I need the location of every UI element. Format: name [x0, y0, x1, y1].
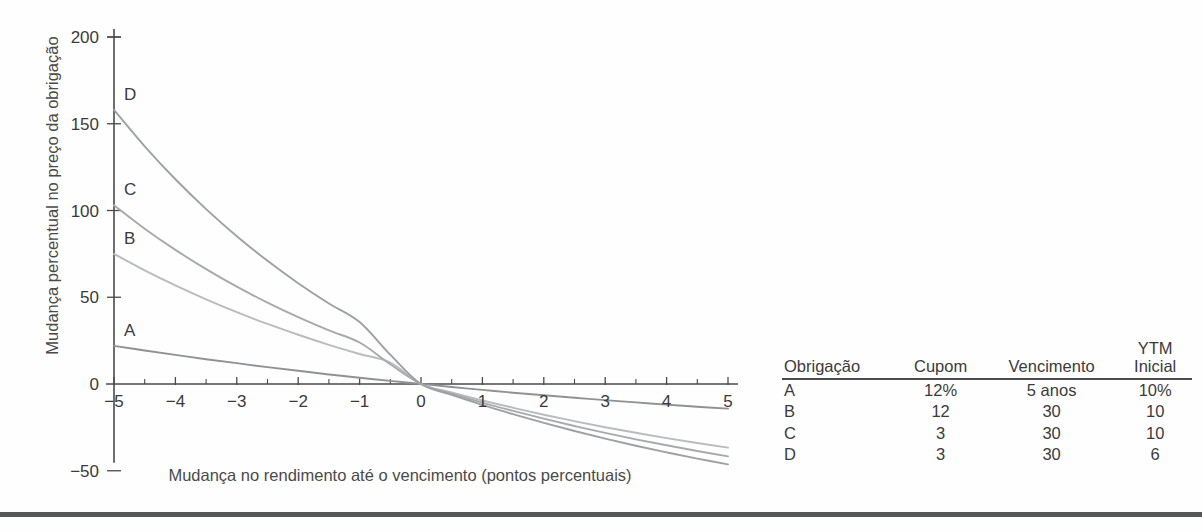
table-header: Obrigação Cupom Vencimento YTM Inicial: [782, 340, 1192, 379]
x-tick-label: 1: [478, 392, 487, 411]
curve-d: [114, 110, 728, 464]
table-cell-maturity: 30: [985, 444, 1118, 465]
y-tick-label: 200: [71, 28, 99, 47]
y-tick-label: 150: [71, 115, 99, 134]
y-tick-label: 100: [71, 202, 99, 221]
bottom-divider-rule: [0, 512, 1202, 517]
table-cell-bond: D: [782, 444, 896, 465]
table-header-row: Obrigação Cupom Vencimento YTM Inicial: [782, 340, 1192, 379]
table-cell-maturity: 5 anos: [985, 379, 1118, 401]
y-tick-label: −50: [70, 462, 99, 481]
curve-label-c: C: [124, 180, 136, 199]
table-cell-bond: B: [782, 401, 896, 422]
table-header-vencimento-line1: Vencimento: [991, 358, 1112, 376]
curve-b: [114, 254, 728, 448]
table-cell-coupon: 3: [896, 423, 985, 444]
x-tick-label: −3: [227, 392, 246, 411]
tick-labels-group: −5−4−3−2−1012345050100150200−50: [70, 28, 733, 481]
table-cell-bond: C: [782, 423, 896, 444]
x-tick-label: −1: [350, 392, 369, 411]
table-cell-maturity: 30: [985, 401, 1118, 422]
table-cell-ytm: 10%: [1118, 379, 1192, 401]
x-tick-label: 0: [416, 392, 425, 411]
x-tick-label: 3: [600, 392, 609, 411]
x-axis-title: Mudança no rendimento até o vencimento (…: [120, 466, 680, 485]
x-tick-label: −2: [289, 392, 308, 411]
table-row: C33010: [782, 423, 1192, 444]
table-header-vencimento: Vencimento: [985, 340, 1118, 379]
table-cell-coupon: 3: [896, 444, 985, 465]
y-tick-label: 50: [80, 288, 99, 307]
table-header-cupom: Cupom: [896, 340, 985, 379]
table-header-ytm-line2: Inicial: [1124, 358, 1186, 376]
table-row: D3306: [782, 444, 1192, 465]
chart-svg: −5−4−3−2−1012345050100150200−50 ABCD: [0, 0, 800, 500]
table-cell-coupon: 12: [896, 401, 985, 422]
table-body: A12%5 anos10%B123010C33010D3306: [782, 379, 1192, 466]
x-tick-label: 5: [723, 392, 732, 411]
x-tick-label: 4: [662, 392, 671, 411]
x-tick-label: 2: [539, 392, 548, 411]
x-tick-label: −5: [104, 392, 123, 411]
table-row: A12%5 anos10%: [782, 379, 1192, 401]
table-cell-ytm: 10: [1118, 401, 1192, 422]
table-cell-ytm: 10: [1118, 423, 1192, 444]
table-header-cupom-line1: Cupom: [902, 358, 979, 376]
x-tick-label: −4: [166, 392, 185, 411]
table-header-ytm-line1: YTM: [1124, 340, 1186, 358]
table-header-obrigacao: Obrigação: [782, 340, 896, 379]
curve-label-b: B: [124, 229, 135, 248]
table-cell-coupon: 12%: [896, 379, 985, 401]
y-tick-label: 0: [90, 375, 99, 394]
curve-c: [114, 205, 728, 456]
table-row: B123010: [782, 401, 1192, 422]
y-axis-title: Mudança percentual no preço da obrigação: [43, 0, 62, 396]
curve-label-a: A: [124, 321, 136, 340]
table-header-ytm-inicial: YTM Inicial: [1118, 340, 1192, 379]
curve-label-d: D: [124, 85, 136, 104]
figure-container: −5−4−3−2−1012345050100150200−50 ABCD Mud…: [0, 0, 1202, 532]
table-cell-bond: A: [782, 379, 896, 401]
table-cell-maturity: 30: [985, 423, 1118, 444]
bond-parameters-table: Obrigação Cupom Vencimento YTM Inicial A…: [782, 340, 1192, 466]
chart-plot-area: −5−4−3−2−1012345050100150200−50 ABCD Mud…: [0, 0, 800, 500]
curves-group: [114, 110, 728, 464]
table-header-obrigacao-line1: Obrigação: [784, 358, 890, 376]
table-cell-ytm: 6: [1118, 444, 1192, 465]
